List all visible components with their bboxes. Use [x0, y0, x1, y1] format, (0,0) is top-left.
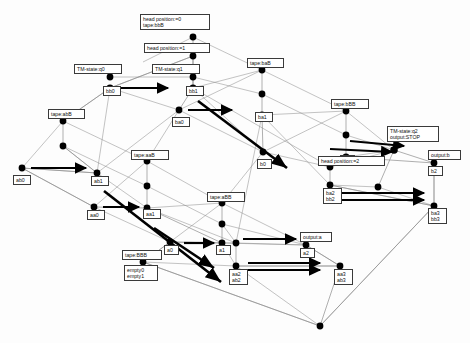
- graph-node[interactable]: [260, 149, 267, 156]
- lattice-edge: [263, 111, 346, 152]
- lattice-edge: [97, 88, 110, 173]
- lattice-edge: [22, 168, 94, 207]
- node-label: aa3 ab3: [334, 269, 353, 285]
- graph-node[interactable]: [233, 240, 240, 247]
- graph-node[interactable]: [190, 34, 197, 41]
- lattice-edge: [236, 115, 262, 243]
- node-label: TM-state:q1: [152, 64, 200, 74]
- node-label: tape:bBB: [331, 99, 369, 109]
- node-label: TM-state:q0: [74, 64, 122, 74]
- graph-node[interactable]: [176, 107, 183, 114]
- node-label: ab0: [13, 175, 31, 185]
- node-label: bb1: [186, 86, 204, 96]
- node-label: ab1: [91, 176, 109, 186]
- node-label: a0: [164, 245, 179, 255]
- node-label: tape:BBB: [122, 250, 162, 260]
- graph-node[interactable]: [144, 183, 151, 190]
- node-label: ba2 bb2: [323, 188, 342, 204]
- node-label: head position:=0 tape:bbB: [140, 14, 210, 30]
- node-label: tape:abB: [48, 109, 85, 119]
- graph-node[interactable]: [390, 146, 398, 154]
- bold-transition-line: [154, 228, 214, 268]
- node-label: ba1: [255, 112, 273, 122]
- diagram-canvas: head position:=0 tape:bbBhead position:=…: [0, 0, 470, 343]
- node-label: tape:aaB: [131, 150, 169, 160]
- node-label: b2: [428, 166, 443, 176]
- graph-node[interactable]: [317, 323, 324, 330]
- node-label: bb0: [103, 86, 121, 96]
- diagram-svg: [0, 0, 470, 343]
- graph-node[interactable]: [343, 132, 350, 139]
- node-label: aa1: [143, 209, 161, 219]
- graph-node[interactable]: [190, 74, 197, 81]
- node-label: a2: [300, 248, 315, 258]
- node-label: empty0 empty1: [124, 265, 158, 281]
- graph-node[interactable]: [375, 184, 382, 191]
- bold-transition-line: [104, 191, 221, 282]
- node-label: head position:=1: [144, 43, 210, 53]
- node-label: a1: [216, 245, 231, 255]
- graph-node[interactable]: [219, 221, 226, 228]
- lattice-edge: [22, 121, 63, 168]
- lattice-edge: [97, 110, 179, 173]
- node-label: b0: [257, 159, 272, 169]
- graph-node[interactable]: [60, 143, 67, 150]
- node-label: output:a: [300, 232, 332, 242]
- lattice-edge: [236, 266, 320, 326]
- node-layer: [19, 34, 438, 330]
- graph-node[interactable]: [190, 53, 197, 60]
- node-label: ba0: [172, 117, 190, 127]
- node-label: aa0: [87, 210, 105, 220]
- graph-node[interactable]: [19, 165, 26, 172]
- node-label: tape:aBB: [207, 192, 245, 202]
- lattice-edge: [147, 203, 222, 208]
- thin-edge-layer: [22, 37, 434, 326]
- node-label: TM-state:q2 output:STOP: [387, 126, 439, 142]
- node-label: ba3 bb3: [428, 208, 447, 224]
- node-label: output:b: [428, 150, 461, 160]
- lattice-edge: [179, 110, 263, 152]
- node-label: aa2 ab2: [229, 269, 248, 285]
- transition-arrow: [330, 149, 392, 152]
- node-label: tape:baB: [247, 58, 284, 68]
- graph-node[interactable]: [259, 91, 266, 98]
- lattice-edge: [262, 115, 330, 185]
- graph-node[interactable]: [107, 74, 114, 81]
- node-label: head position:=2: [318, 156, 385, 166]
